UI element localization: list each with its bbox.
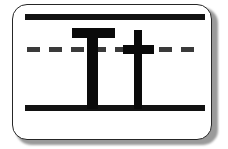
flashcard-image: T t Tt — [0, 0, 228, 149]
letters-shown-label: Tt — [13, 5, 14, 6]
uppercase-t-stem — [87, 28, 98, 109]
letter-glyph-group: T t Tt — [13, 5, 211, 139]
lowercase-t-stem — [134, 30, 142, 109]
uppercase-letter-label: T — [13, 5, 14, 6]
lowercase-letter-label: t — [13, 5, 14, 6]
letter-flashcard[interactable]: T t Tt — [12, 4, 212, 140]
